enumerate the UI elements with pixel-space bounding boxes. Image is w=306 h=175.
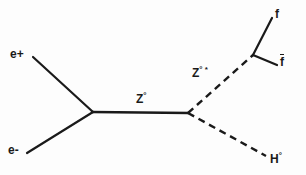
higgs-label-text: H	[270, 152, 279, 166]
higgs-label: H°	[270, 152, 282, 165]
antifermion-line	[253, 55, 277, 65]
positron-line	[33, 57, 93, 112]
fermion-label: f	[275, 8, 279, 20]
z-virtual-line	[188, 55, 253, 113]
z-boson-label: Z°	[136, 92, 147, 105]
feynman-diagram: e+ e- Z° Z° * f f H°	[0, 0, 306, 175]
higgs-label-superscript: °	[279, 151, 282, 160]
electron-line	[27, 112, 93, 153]
feynman-diagram-canvas	[0, 0, 306, 175]
antifermion-label-text: f	[280, 54, 284, 68]
electron-label: e-	[8, 144, 19, 156]
antifermion-label: f	[280, 54, 284, 68]
z-propagator-line	[92, 112, 189, 113]
z-boson-virtual-label: Z° *	[192, 66, 208, 79]
fermion-line	[253, 18, 272, 55]
z-boson-label-superscript: °	[143, 91, 146, 100]
z-boson-virtual-label-superscript: ° *	[199, 65, 208, 74]
higgs-line	[188, 113, 266, 156]
positron-label: e+	[10, 48, 24, 60]
